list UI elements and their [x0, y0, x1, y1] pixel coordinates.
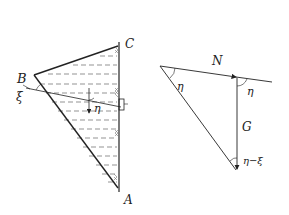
label-eta-left: η: [94, 102, 101, 115]
force-N: [160, 66, 236, 77]
label-eta-right: η: [247, 85, 254, 98]
left-figure: B ξ C A η: [16, 37, 134, 207]
anchor-block: [119, 99, 124, 110]
diagram-canvas: B ξ C A η N η η G η−ξ: [0, 0, 289, 215]
label-G: G: [242, 120, 252, 134]
xi-angle-arc: [36, 84, 41, 90]
edge-BC: [34, 46, 118, 75]
slip-line: [26, 88, 121, 107]
label-eta-minus-xi: η−ξ: [243, 155, 263, 166]
label-C: C: [125, 37, 134, 51]
right-figure: N η η G η−ξ: [160, 54, 272, 170]
eta-angle-arc: [89, 98, 94, 100]
label-N: N: [211, 54, 223, 68]
label-B: B: [16, 71, 27, 86]
angle-arc-bottom: [230, 158, 237, 161]
label-eta-top: η: [177, 80, 184, 93]
water-hatch-lines: [40, 56, 117, 182]
angle-arc-top-left: [170, 68, 175, 78]
wall-hatch-marks: [114, 47, 118, 180]
label-A: A: [123, 193, 133, 207]
label-xi: ξ: [16, 90, 24, 104]
angle-arc-right: [237, 79, 247, 86]
N-extension: [236, 77, 272, 82]
resultant: [160, 66, 236, 170]
